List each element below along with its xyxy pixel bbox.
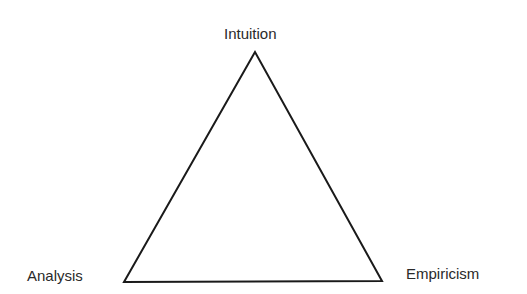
vertex-label-analysis: Analysis: [27, 268, 83, 283]
triangle-diagram: Intuition Analysis Empiricism: [0, 0, 527, 294]
vertex-label-empiricism: Empiricism: [406, 266, 479, 281]
triangle-shape: [0, 0, 527, 294]
vertex-label-intuition: Intuition: [224, 26, 277, 41]
